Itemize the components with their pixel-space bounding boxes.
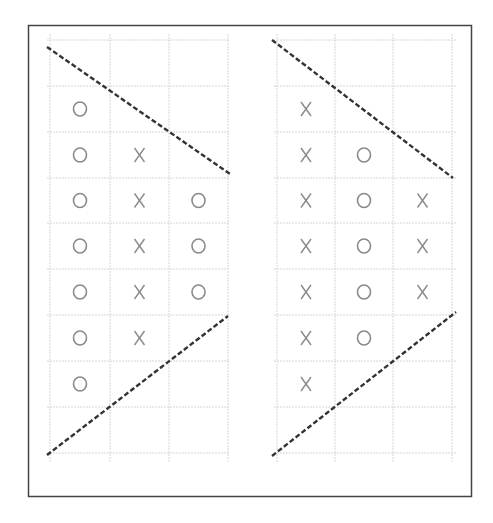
background: [0, 0, 493, 523]
figure: [0, 0, 493, 523]
